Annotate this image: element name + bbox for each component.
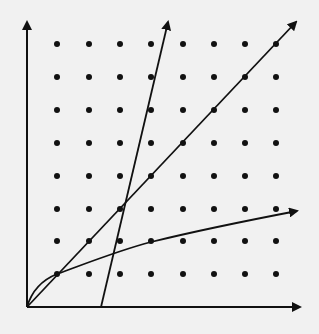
- grid-dot: [86, 107, 92, 113]
- grid-dot: [86, 206, 92, 212]
- grid-dot: [273, 238, 279, 244]
- grid-dot: [117, 41, 123, 47]
- grid-dot: [211, 271, 217, 277]
- grid-dot: [117, 107, 123, 113]
- grid-dot: [148, 74, 154, 80]
- grid-dot: [242, 173, 248, 179]
- grid-dot: [180, 41, 186, 47]
- grid-dot: [211, 140, 217, 146]
- graph-figure: [0, 0, 319, 334]
- grid-dot: [242, 107, 248, 113]
- grid-dot: [117, 173, 123, 179]
- grid-dot: [148, 140, 154, 146]
- grid-dot: [54, 206, 60, 212]
- grid-dot: [148, 206, 154, 212]
- grid-dot: [54, 41, 60, 47]
- grid-dot: [86, 41, 92, 47]
- grid-dot: [242, 206, 248, 212]
- grid-dot: [148, 41, 154, 47]
- grid-dot: [86, 173, 92, 179]
- grid-dot: [54, 140, 60, 146]
- grid-dot: [117, 271, 123, 277]
- grid-dot: [54, 74, 60, 80]
- grid-dot: [242, 238, 248, 244]
- grid-dot: [242, 140, 248, 146]
- grid-dot: [180, 173, 186, 179]
- grid-dot: [54, 173, 60, 179]
- grid-dot: [180, 74, 186, 80]
- grid-dot: [180, 271, 186, 277]
- grid-dot: [86, 140, 92, 146]
- grid-dot: [148, 107, 154, 113]
- grid-dot: [273, 271, 279, 277]
- grid-dot: [242, 271, 248, 277]
- grid-dot: [211, 238, 217, 244]
- grid-dot: [54, 107, 60, 113]
- grid-dot: [273, 74, 279, 80]
- grid-dot: [86, 74, 92, 80]
- grid-dot: [211, 206, 217, 212]
- grid-dot: [273, 206, 279, 212]
- grid-dot: [86, 271, 92, 277]
- grid-dot: [117, 74, 123, 80]
- grid-dot: [180, 238, 186, 244]
- grid-dot: [117, 140, 123, 146]
- grid-dot: [54, 238, 60, 244]
- grid-dot: [180, 206, 186, 212]
- grid-dot: [211, 41, 217, 47]
- grid-dot: [242, 41, 248, 47]
- grid-dot: [211, 74, 217, 80]
- grid-dot: [148, 271, 154, 277]
- grid-dot: [273, 173, 279, 179]
- grid-dot: [273, 107, 279, 113]
- grid-dot: [211, 173, 217, 179]
- grid-dot: [180, 107, 186, 113]
- grid-dot: [273, 140, 279, 146]
